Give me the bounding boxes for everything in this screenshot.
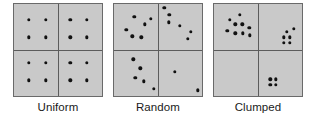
data-point-dot — [282, 41, 285, 44]
data-point-dot — [247, 26, 250, 29]
horizontal-divider-line — [114, 50, 202, 51]
horizontal-divider-line — [14, 50, 102, 51]
dispersion-pattern-figure: UniformRandomClumped — [0, 0, 318, 122]
data-point-dot — [27, 35, 30, 38]
data-point-dot — [238, 13, 241, 16]
data-point-dot — [233, 23, 236, 26]
data-point-dot — [85, 18, 88, 21]
data-point-dot — [189, 30, 192, 33]
data-point-dot — [269, 83, 272, 86]
data-point-dot — [186, 37, 189, 40]
data-point-dot — [149, 17, 152, 20]
quadrat-panel-random — [113, 3, 203, 97]
data-point-dot — [274, 78, 277, 81]
data-point-dot — [44, 18, 47, 21]
data-point-dot — [44, 35, 47, 38]
scatter-plot-area — [114, 4, 202, 96]
data-point-dot — [125, 28, 128, 31]
data-point-dot — [269, 78, 272, 81]
quadrat-panel-uniform — [13, 3, 103, 97]
data-point-dot — [44, 79, 47, 82]
data-point-dot — [85, 61, 88, 64]
data-point-dot — [167, 21, 170, 24]
data-point-dot — [69, 79, 72, 82]
data-point-dot — [228, 18, 231, 21]
data-point-dot — [143, 23, 146, 26]
data-point-dot — [282, 35, 285, 38]
data-point-dot — [27, 18, 30, 21]
data-point-dot — [241, 32, 244, 35]
data-point-dot — [69, 61, 72, 64]
data-point-dot — [27, 79, 30, 82]
data-point-dot — [85, 35, 88, 38]
data-point-dot — [292, 27, 295, 30]
quadrat-panel-clumped — [213, 3, 303, 97]
data-point-dot — [152, 87, 155, 90]
data-point-dot — [233, 32, 236, 35]
data-point-dot — [69, 35, 72, 38]
data-point-dot — [288, 41, 291, 44]
data-point-dot — [168, 13, 171, 16]
data-point-dot — [173, 70, 176, 73]
data-point-dot — [44, 61, 47, 64]
scatter-plot-area — [214, 4, 302, 96]
data-point-dot — [274, 83, 277, 86]
data-point-dot — [133, 15, 136, 18]
panel-label-clumped: Clumped — [213, 101, 303, 113]
data-point-dot — [240, 23, 243, 26]
data-point-dot — [69, 18, 72, 21]
data-point-dot — [142, 80, 145, 83]
scatter-plot-area — [14, 4, 102, 96]
horizontal-divider-line — [214, 50, 302, 51]
data-point-dot — [133, 76, 136, 79]
data-point-dot — [131, 34, 134, 37]
data-point-dot — [288, 35, 291, 38]
data-point-dot — [139, 67, 142, 70]
data-point-dot — [178, 24, 181, 27]
data-point-dot — [85, 79, 88, 82]
data-point-dot — [27, 61, 30, 64]
data-point-dot — [225, 29, 228, 32]
panel-label-uniform: Uniform — [13, 101, 103, 113]
panel-label-random: Random — [113, 101, 203, 113]
data-point-dot — [132, 57, 135, 60]
data-point-dot — [285, 30, 288, 33]
data-point-dot — [140, 35, 143, 38]
data-point-dot — [196, 89, 199, 92]
data-point-dot — [162, 6, 165, 9]
data-point-dot — [248, 34, 251, 37]
